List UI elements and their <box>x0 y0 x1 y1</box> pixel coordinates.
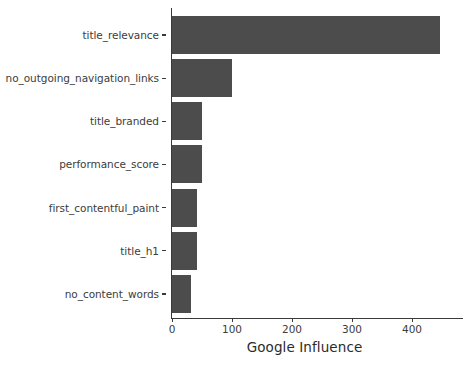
y-tick-mark-icon <box>162 34 166 35</box>
y-tick-label: no_content_words <box>65 288 159 300</box>
plot-area <box>172 8 463 318</box>
x-tick-label: 300 <box>342 323 362 335</box>
bar-series <box>172 16 463 313</box>
bar-row <box>172 145 463 183</box>
y-tick-row: title_h1 <box>0 232 166 270</box>
bar-no-outgoing-navigation-links <box>172 59 232 97</box>
bar-row <box>172 59 463 97</box>
x-tick-mark-icon <box>172 318 173 322</box>
x-tick-mark-icon <box>292 318 293 322</box>
bar-performance-score <box>172 145 202 183</box>
y-tick-label: first_contentful_paint <box>49 202 159 214</box>
y-tick-label: title_h1 <box>120 245 159 257</box>
x-tick-label: 100 <box>222 323 242 335</box>
y-tick-row: first_contentful_paint <box>0 189 166 227</box>
x-tick-label: 0 <box>169 323 176 335</box>
x-axis-title: Google Influence <box>0 339 469 355</box>
x-tick-label: 200 <box>282 323 302 335</box>
y-tick-mark-icon <box>162 164 166 165</box>
y-axis-tick-labels: title_relevance no_outgoing_navigation_l… <box>0 16 166 313</box>
bar-row <box>172 189 463 227</box>
bar-no-content-words <box>172 275 191 313</box>
y-tick-mark-icon <box>162 250 166 251</box>
y-tick-row: title_branded <box>0 102 166 140</box>
y-tick-label: no_outgoing_navigation_links <box>6 72 159 84</box>
x-tick-mark-icon <box>232 318 233 322</box>
bar-row <box>172 232 463 270</box>
bar-title-relevance <box>172 16 440 54</box>
y-tick-row: no_outgoing_navigation_links <box>0 59 166 97</box>
x-tick-mark-icon <box>412 318 413 322</box>
bar-title-branded <box>172 102 202 140</box>
x-tick-label: 400 <box>402 323 422 335</box>
bar-row <box>172 275 463 313</box>
y-tick-row: title_relevance <box>0 16 166 54</box>
bar-chart-figure: title_relevance no_outgoing_navigation_l… <box>0 0 469 366</box>
bar-first-contentful-paint <box>172 189 197 227</box>
y-tick-mark-icon <box>162 121 166 122</box>
x-axis-title-text: Google Influence <box>107 339 363 355</box>
y-tick-row: no_content_words <box>0 275 166 313</box>
y-tick-mark-icon <box>162 293 166 294</box>
y-tick-label: performance_score <box>59 158 159 170</box>
bar-title-h1 <box>172 232 197 270</box>
y-tick-row: performance_score <box>0 145 166 183</box>
bar-row <box>172 102 463 140</box>
bar-row <box>172 16 463 54</box>
y-tick-label: title_relevance <box>83 29 160 41</box>
y-tick-mark-icon <box>162 78 166 79</box>
y-tick-mark-icon <box>162 207 166 208</box>
y-tick-label: title_branded <box>90 115 159 127</box>
x-tick-mark-icon <box>352 318 353 322</box>
